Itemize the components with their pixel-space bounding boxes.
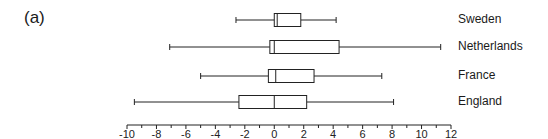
label-sweden: Sweden bbox=[458, 12, 501, 26]
tick-label: -4 bbox=[210, 128, 220, 139]
tick-label: -10 bbox=[119, 128, 135, 139]
tick-label: 4 bbox=[330, 128, 336, 139]
tick-label: 2 bbox=[301, 128, 307, 139]
iqr-box bbox=[270, 41, 339, 54]
boxes-group bbox=[134, 14, 440, 109]
label-france: France bbox=[458, 68, 495, 82]
x-axis: -10-8-6-4-2024681012 bbox=[119, 125, 457, 139]
iqr-box bbox=[274, 14, 301, 27]
tick-label: 6 bbox=[360, 128, 366, 139]
box-france bbox=[201, 70, 382, 83]
box-sweden bbox=[236, 14, 336, 27]
label-netherlands: Netherlands bbox=[458, 39, 523, 53]
box-netherlands bbox=[170, 41, 441, 54]
iqr-box bbox=[268, 70, 314, 83]
tick-label: 8 bbox=[389, 128, 395, 139]
tick-label: 0 bbox=[271, 128, 277, 139]
tick-label: -8 bbox=[152, 128, 162, 139]
tick-label: 12 bbox=[445, 128, 457, 139]
tick-label: 10 bbox=[415, 128, 427, 139]
box-england bbox=[134, 96, 393, 109]
iqr-box bbox=[239, 96, 307, 109]
tick-label: -2 bbox=[240, 128, 250, 139]
label-england: England bbox=[458, 94, 502, 108]
tick-label: -6 bbox=[181, 128, 191, 139]
